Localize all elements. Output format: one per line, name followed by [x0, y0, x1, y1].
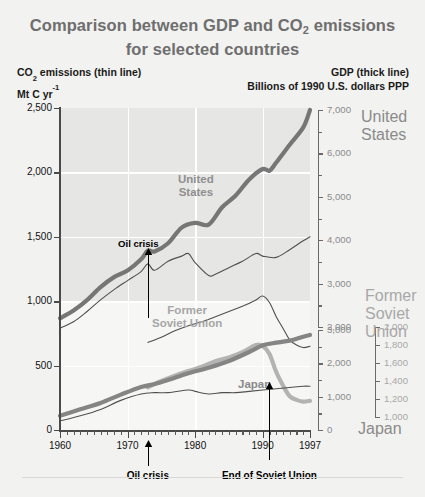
x-axis-major-tick	[60, 431, 61, 438]
x-axis-minor-tick	[94, 431, 95, 435]
oil-crisis-arrow-bottom	[143, 440, 154, 466]
series-label-united-states: UnitedStates	[178, 173, 214, 199]
right-axis-name-line: United	[361, 108, 407, 125]
x-axis-major-tick	[310, 431, 311, 438]
right-axis-tick	[318, 153, 323, 154]
x-axis-minor-tick	[161, 431, 162, 435]
page-title: Comparison between GDP and CO2 emissions…	[0, 14, 425, 60]
x-axis-minor-tick	[107, 431, 108, 435]
x-axis-minor-tick	[87, 431, 88, 435]
right-axis-tick-label: 1,200	[384, 393, 408, 404]
x-axis-minor-tick	[188, 431, 189, 435]
right-axis-tick-label: 3,000	[327, 324, 351, 335]
x-axis-minor-tick	[296, 431, 297, 435]
series-label-line: Soviet Union	[152, 317, 222, 329]
left-axis-tick-label: 2,500	[2, 102, 52, 113]
x-axis-tick-label: 1980	[172, 440, 218, 451]
left-axis-tick	[54, 301, 60, 302]
x-axis-minor-tick	[222, 431, 223, 435]
chart-figure: Comparison between GDP and CO2 emissions…	[0, 0, 425, 497]
left-axis-tick-label: 1,500	[2, 231, 52, 242]
series-label-former-soviet-union: FormerSoviet Union	[152, 304, 222, 330]
right-axis-tick	[318, 330, 323, 331]
right-axis-name-line: Union	[365, 323, 407, 340]
x-axis-minor-tick	[290, 431, 291, 435]
x-axis-tick-label: 1990	[240, 440, 286, 451]
x-axis-tick-label: 1997	[287, 440, 333, 451]
x-axis-minor-tick	[101, 431, 102, 435]
right-axis-tick	[375, 363, 380, 364]
right-axis-tick	[318, 110, 323, 111]
gdp-head-line2: Billions of 1990 U.S. dollars PPP	[247, 80, 409, 92]
left-axis-tick	[54, 237, 60, 238]
right-axis-tick	[318, 363, 323, 364]
right-axis-name-line: States	[361, 126, 406, 143]
right-axis-minor-tick	[318, 413, 322, 414]
right-axis-name-line: Soviet	[365, 305, 409, 322]
x-axis-tick-label: 1960	[37, 440, 83, 451]
x-axis-minor-tick	[256, 431, 257, 435]
x-axis-minor-tick	[236, 431, 237, 435]
x-axis-minor-tick	[242, 431, 243, 435]
right-axis-name-line: Former	[365, 287, 417, 304]
x-axis-minor-tick	[249, 431, 250, 435]
right-axis-tick	[318, 327, 323, 328]
end-of-soviet-union-arrow	[264, 382, 275, 460]
series-label-line: States	[179, 186, 214, 198]
title-subscript: 2	[303, 24, 309, 36]
right-axis-minor-tick	[318, 380, 322, 381]
right-axis-tick-label: 1,600	[384, 357, 408, 368]
left-axis-labels: 05001,0001,5002,0002,500	[0, 0, 52, 497]
left-axis-tick	[54, 366, 60, 367]
right-axis-name: FormerSovietUnion	[365, 287, 417, 341]
x-axis-minor-tick	[141, 431, 142, 435]
left-axis-tick-label: 500	[2, 360, 52, 371]
x-axis-minor-tick	[114, 431, 115, 435]
series-line-united-states-gdp	[60, 110, 310, 318]
right-axis-name-line: Japan	[358, 420, 402, 437]
series-label-line: Former	[167, 304, 207, 316]
right-axis-tick-label: 7,000	[327, 104, 351, 115]
x-axis-minor-tick	[121, 431, 122, 435]
right-axis-name: Japan	[358, 420, 402, 438]
right-axis-tick-label: 0	[327, 424, 332, 435]
x-axis-minor-tick	[155, 431, 156, 435]
x-axis-minor-tick	[182, 431, 183, 435]
title-line-2: for selected countries	[126, 40, 300, 58]
x-axis-minor-tick	[276, 431, 277, 435]
right-axis-tick-label: 5,000	[327, 191, 351, 202]
x-axis-minor-tick	[148, 431, 149, 435]
left-axis-tick-label: 2,000	[2, 166, 52, 177]
left-axis-tick-label: 1,000	[2, 295, 52, 306]
right-axis-name: UnitedStates	[361, 108, 407, 144]
right-axis-tick	[318, 197, 323, 198]
x-axis-minor-tick	[283, 431, 284, 435]
x-axis-minor-tick	[80, 431, 81, 435]
footer-divider	[22, 477, 403, 478]
right-axis-tick-label: 3,000	[327, 278, 351, 289]
right-axis-tick-label: 1,000	[327, 391, 351, 402]
right-axis-tick-label: 4,000	[327, 234, 351, 245]
x-axis-minor-tick	[303, 431, 304, 435]
oil-crisis-label-inplot: Oil crisis	[118, 238, 159, 249]
x-axis-minor-tick	[175, 431, 176, 435]
right-axis-tick	[375, 345, 380, 346]
x-axis-minor-tick	[74, 431, 75, 435]
right-axis-tick-label: 6,000	[327, 147, 351, 158]
right-axis-tick-label: 2,000	[327, 357, 351, 368]
x-axis-major-tick	[128, 431, 129, 438]
right-axis-minor-tick	[318, 175, 322, 176]
right-axis-tick	[375, 381, 380, 382]
x-axis-minor-tick	[215, 431, 216, 435]
x-axis-major-tick	[195, 431, 196, 438]
right-axis-tick	[375, 399, 380, 400]
left-axis-tick	[54, 108, 60, 109]
left-axis-tick-label: 0	[2, 424, 52, 435]
x-axis-minor-tick	[209, 431, 210, 435]
x-axis-minor-tick	[134, 431, 135, 435]
series-label-line: United	[178, 173, 214, 185]
left-axis-tick	[54, 172, 60, 173]
left-axis-tick	[54, 430, 60, 431]
right-axis-tick	[318, 397, 323, 398]
oil-crisis-label-bottom: Oil crisis	[98, 470, 198, 481]
